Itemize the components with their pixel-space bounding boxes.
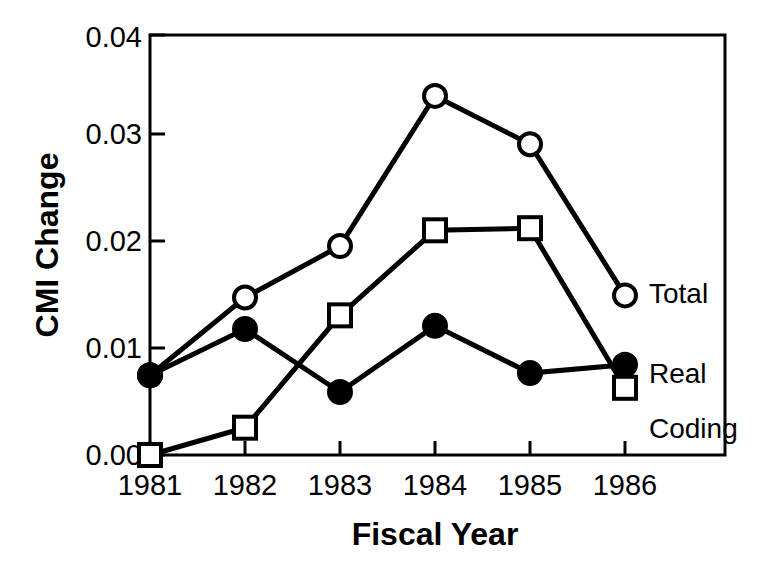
y-axis-tick-labels: 0.00 0.01 0.02 0.03 0.04 [86,21,142,471]
series-label-coding: Coding [649,413,738,444]
data-point-total-1985[interactable] [519,133,541,155]
y-tick-label-2: 0.02 [86,225,142,257]
data-point-coding-1985[interactable] [519,217,541,239]
data-point-total-1986[interactable] [614,284,636,306]
x-tick-label-4: 1985 [498,469,563,501]
y-tick-label-4: 0.04 [86,21,142,53]
data-point-coding-1982[interactable] [234,417,256,439]
x-tick-label-2: 1983 [308,469,373,501]
series-label-real: Real [649,358,707,389]
x-tick-label-5: 1986 [593,469,658,501]
data-point-total-1983[interactable] [329,235,351,257]
series-line-total [150,96,625,375]
data-point-total-1982[interactable] [234,287,256,309]
data-point-real-1984[interactable] [424,315,446,337]
data-point-coding-1983[interactable] [329,304,351,326]
data-point-real-1985[interactable] [519,362,541,384]
y-axis-title: CMI Change [29,153,65,338]
data-point-real-1986[interactable] [614,354,636,376]
data-point-coding-1984[interactable] [424,219,446,241]
x-axis-ticks [150,441,625,455]
y-tick-label-3: 0.03 [86,118,142,150]
data-point-real-1983[interactable] [329,381,351,403]
data-point-real-1982[interactable] [234,318,256,340]
x-axis-title: Fiscal Year [352,516,519,552]
cmi-change-line-chart: 0.00 0.01 0.02 0.03 0.04 1981 1982 1983 … [0,0,766,570]
series-lines [150,96,625,455]
x-tick-label-3: 1984 [403,469,468,501]
y-tick-label-1: 0.01 [86,332,142,364]
y-axis-ticks [150,35,165,455]
data-point-real-1981[interactable] [139,364,161,386]
series-label-total: Total [649,278,708,309]
data-point-coding-1981[interactable] [139,444,161,466]
data-point-coding-1986[interactable] [614,377,636,399]
x-tick-label-1: 1982 [213,469,278,501]
data-point-total-1984[interactable] [424,85,446,107]
series-line-real [150,326,625,392]
x-axis-tick-labels: 1981 1982 1983 1984 1985 1986 [118,469,658,501]
x-tick-label-0: 1981 [118,469,183,501]
y-tick-label-0: 0.00 [86,439,142,471]
